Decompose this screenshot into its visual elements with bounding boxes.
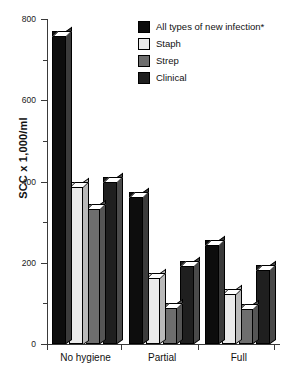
- y-minor-tick: [43, 141, 47, 142]
- x-tick: [198, 344, 199, 350]
- x-axis-label-1: Partial: [119, 352, 206, 363]
- bar: [129, 192, 143, 344]
- x-tick: [274, 344, 275, 350]
- x-axis-label-2: Full: [195, 352, 282, 363]
- y-tick-label: 0: [8, 339, 36, 349]
- bar-side: [83, 177, 89, 344]
- bar-side: [219, 236, 225, 344]
- legend-item[interactable]: Strep: [138, 52, 264, 69]
- x-tick: [121, 344, 122, 350]
- y-tick: [41, 263, 47, 264]
- legend-label: Staph: [156, 38, 181, 49]
- bar-chart: SCC x 1,000/ml 0200400600800 No hygieneP…: [0, 0, 290, 371]
- y-tick-label: 400: [8, 177, 36, 187]
- legend-swatch-icon: [138, 72, 150, 84]
- bar-side: [194, 256, 200, 344]
- bar: [205, 240, 219, 344]
- bar-face: [129, 192, 143, 344]
- bar-face: [205, 240, 219, 344]
- y-tick: [41, 100, 47, 101]
- legend-item[interactable]: All types of new infection*: [138, 18, 264, 35]
- bar-side: [270, 260, 276, 344]
- legend-item[interactable]: Clinical: [138, 69, 264, 86]
- bar-side: [117, 173, 123, 344]
- y-tick-label: 800: [8, 14, 36, 24]
- legend-swatch-icon: [138, 55, 150, 67]
- legend-swatch-icon: [138, 38, 150, 50]
- bar-side: [143, 187, 149, 344]
- x-axis-line: [47, 344, 280, 345]
- y-minor-tick: [43, 222, 47, 223]
- bar-face: [52, 31, 66, 344]
- legend-swatch-icon: [138, 21, 150, 33]
- bar-side: [160, 269, 166, 344]
- x-tick-origin: [47, 344, 48, 350]
- y-minor-tick: [43, 303, 47, 304]
- chart-legend: All types of new infection*StaphStrepCli…: [138, 18, 264, 86]
- y-tick-label: 200: [8, 258, 36, 268]
- x-axis-label-0: No hygiene: [42, 352, 129, 363]
- legend-label: All types of new infection*: [156, 21, 264, 32]
- bar-side: [66, 27, 72, 344]
- bar: [52, 31, 66, 344]
- y-tick: [41, 19, 47, 20]
- y-axis-label: SCC x 1,000/ml: [17, 103, 29, 213]
- legend-item[interactable]: Staph: [138, 35, 264, 52]
- y-minor-tick: [43, 60, 47, 61]
- y-axis-line: [47, 19, 48, 345]
- legend-label: Strep: [156, 55, 179, 66]
- y-tick-label: 600: [8, 95, 36, 105]
- legend-label: Clinical: [156, 72, 187, 83]
- y-tick: [41, 182, 47, 183]
- bar-side: [100, 199, 106, 344]
